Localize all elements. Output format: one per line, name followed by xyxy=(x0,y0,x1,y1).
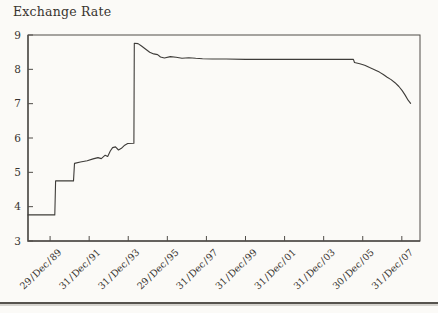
plot-border xyxy=(28,35,420,241)
y-tick-label: 7 xyxy=(14,97,21,109)
y-tick-label: 3 xyxy=(14,235,21,247)
axis-lines xyxy=(28,35,420,241)
y-tick-label: 6 xyxy=(14,132,21,144)
y-tick-label: 5 xyxy=(14,166,21,178)
y-tick-label: 9 xyxy=(14,29,21,41)
y-tick-label: 8 xyxy=(14,63,21,75)
page-divider-rule-shadow xyxy=(0,304,438,306)
x-tick-label: 31 / Dec / 07 xyxy=(369,247,415,292)
y-tick-label: 4 xyxy=(14,200,21,212)
book-figure-page: Exchange Rate 345678929 / Dec / 8931 / D… xyxy=(0,0,438,313)
exchange-rate-line xyxy=(28,43,411,215)
exchange-rate-line-chart: 345678929 / Dec / 8931 / Dec / 9131 / De… xyxy=(0,0,438,298)
